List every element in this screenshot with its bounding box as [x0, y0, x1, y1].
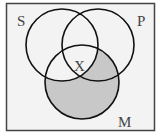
- venn-diagram: S P M X: [0, 0, 160, 136]
- marker-x: X: [74, 58, 85, 74]
- label-m: M: [118, 114, 131, 130]
- label-s: S: [17, 13, 25, 29]
- label-p: P: [137, 13, 145, 29]
